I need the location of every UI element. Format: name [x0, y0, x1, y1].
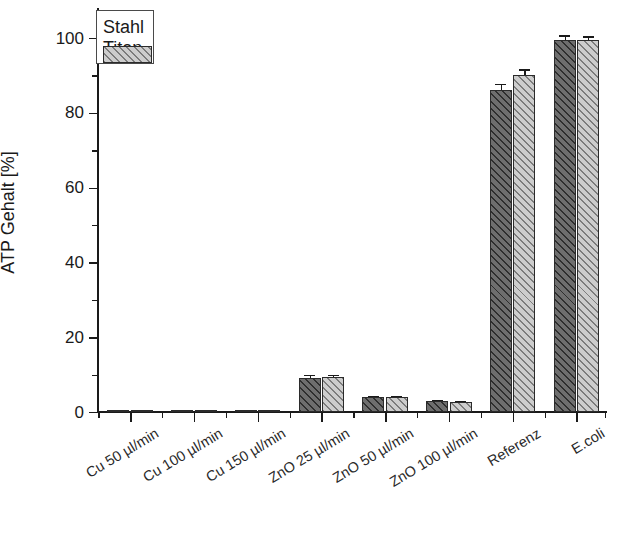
y-tick-label: 80 [65, 103, 84, 123]
bar-titan [577, 40, 599, 412]
x-tick-major [449, 413, 450, 422]
bar-titan [386, 397, 408, 412]
y-tick-label: 100 [56, 29, 84, 49]
chart-legend: Stahl Titan [96, 10, 154, 64]
y-tick-minor [92, 375, 97, 376]
y-tick-label: 60 [65, 178, 84, 198]
bar-stahl [490, 90, 512, 412]
error-bar-cap [559, 35, 570, 36]
legend-item-titan: Titan [103, 37, 144, 58]
x-tick-minor [98, 413, 99, 418]
y-tick-minor [92, 300, 97, 301]
x-tick-minor [417, 413, 418, 418]
error-bar-cap [495, 84, 506, 85]
bar-stahl [107, 410, 129, 412]
x-tick-major [130, 413, 131, 422]
bar-stahl [362, 397, 384, 412]
bar-titan [131, 410, 153, 412]
error-bar-cap [583, 36, 594, 37]
bar-titan [513, 75, 535, 412]
y-tick-minor [92, 150, 97, 151]
error-bar-cap [368, 396, 379, 397]
x-tick-minor [481, 413, 482, 418]
bar-titan [322, 377, 344, 412]
x-tick-major [385, 413, 386, 422]
error-bar-cap [304, 375, 315, 376]
y-tick-label: 20 [65, 328, 84, 348]
bar-titan [450, 402, 472, 412]
y-tick-minor [92, 75, 97, 76]
error-bar-cap [432, 400, 443, 401]
bar-stahl [299, 378, 321, 412]
x-tick-minor [605, 413, 606, 418]
y-tick-major: 20 [89, 337, 97, 338]
y-tick-major: 40 [89, 262, 97, 263]
chart-figure: ATP Gehalt [%] 020406080100Cu 50 µl/minC… [0, 0, 643, 540]
legend-item-stahl: Stahl [103, 16, 144, 37]
x-tick-minor [162, 413, 163, 418]
error-bar-cap [391, 396, 402, 397]
x-tick-major [321, 413, 322, 422]
y-axis-title: ATP Gehalt [%] [0, 33, 19, 393]
y-tick-label: 40 [65, 253, 84, 273]
plot-area: 020406080100Cu 50 µl/minCu 100 µl/minCu … [97, 8, 607, 412]
error-bar-cap [455, 401, 466, 402]
bar-titan [258, 410, 280, 412]
bar-stahl [554, 40, 576, 412]
x-tick-minor [353, 413, 354, 418]
error-bar-cap [328, 375, 339, 376]
x-tick-major [258, 413, 259, 422]
x-tick-major [194, 413, 195, 422]
y-tick-major: 0 [89, 412, 97, 413]
bar-stahl [171, 410, 193, 412]
y-tick-major: 80 [89, 113, 97, 114]
x-tick-major [513, 413, 514, 422]
y-tick-label: 0 [75, 403, 84, 423]
x-tick-minor [226, 413, 227, 418]
y-tick-major: 60 [89, 188, 97, 189]
legend-label-stahl: Stahl [103, 18, 144, 36]
bar-titan [195, 410, 217, 412]
x-tick-minor [290, 413, 291, 418]
y-tick-minor [92, 225, 97, 226]
x-tick-major [576, 413, 577, 422]
bar-stahl [426, 401, 448, 412]
x-tick-minor [545, 413, 546, 418]
bar-stahl [235, 410, 257, 412]
error-bar-cap [519, 69, 530, 70]
legend-swatch-titan [103, 46, 152, 63]
